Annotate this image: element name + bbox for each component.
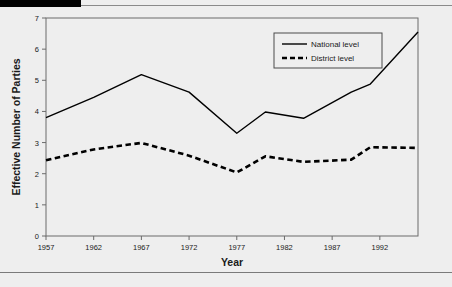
x-axis-ticks — [46, 236, 380, 240]
x-tick-label: 1992 — [372, 243, 389, 252]
legend-label-national: National level — [311, 40, 359, 49]
y-tick-label: 7 — [35, 14, 39, 23]
series-line-district-level — [46, 143, 418, 173]
x-tick-label: 1967 — [133, 243, 150, 252]
x-tick-label: 1957 — [38, 243, 55, 252]
x-axis-title: Year — [221, 256, 243, 268]
y-tick-label: 3 — [35, 139, 39, 148]
y-axis-title: Effective Number of Parties — [10, 58, 22, 195]
x-axis-tick-labels: 19571962196719721977198219871992 — [38, 243, 389, 252]
line-chart: 01234567 1957196219671972197719821987199… — [0, 0, 452, 287]
x-tick-label: 1982 — [276, 243, 293, 252]
x-tick-label: 1977 — [228, 243, 245, 252]
y-tick-label: 2 — [35, 170, 39, 179]
y-tick-label: 5 — [35, 76, 39, 85]
y-axis-tick-labels: 01234567 — [35, 14, 39, 241]
chart-legend: National level District level — [274, 33, 382, 68]
legend-label-district: District level — [311, 54, 354, 63]
x-tick-label: 1962 — [85, 243, 102, 252]
y-axis-ticks — [42, 18, 46, 236]
y-tick-label: 4 — [35, 107, 39, 116]
x-tick-label: 1987 — [324, 243, 341, 252]
y-tick-label: 6 — [35, 45, 39, 54]
y-tick-label: 1 — [35, 201, 39, 210]
x-tick-label: 1972 — [181, 243, 198, 252]
y-tick-label: 0 — [35, 232, 39, 241]
figure-background: 01234567 1957196219671972197719821987199… — [0, 0, 452, 287]
